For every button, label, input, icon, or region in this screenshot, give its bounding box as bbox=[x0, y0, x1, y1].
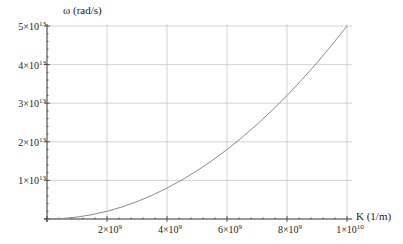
y-tick-label: 3×1013 bbox=[18, 97, 46, 109]
axes bbox=[44, 24, 352, 222]
x-tick-label: 1×1010 bbox=[336, 223, 364, 235]
y-tick-label: 5×1013 bbox=[18, 20, 46, 32]
dispersion-chart: 2×1094×1096×1098×1091×10101×10132×10133×… bbox=[0, 0, 403, 244]
x-tick-label: 4×109 bbox=[158, 223, 183, 235]
x-tick-label: 6×109 bbox=[218, 223, 243, 235]
y-tick-label: 4×1013 bbox=[18, 59, 46, 71]
axis-ticks bbox=[44, 26, 347, 222]
y-tick-label: 1×1013 bbox=[18, 174, 46, 186]
x-tick-label: 2×109 bbox=[98, 223, 123, 235]
grid-lines bbox=[47, 24, 352, 219]
x-axis-label: K (1/m) bbox=[356, 210, 391, 223]
omega-curve bbox=[47, 26, 347, 219]
y-axis-label: ω (rad/s) bbox=[63, 4, 102, 17]
y-tick-label: 2×1013 bbox=[18, 136, 46, 148]
x-tick-label: 8×109 bbox=[278, 223, 303, 235]
tick-labels: 2×1094×1096×1098×1091×10101×10132×10133×… bbox=[18, 20, 364, 235]
